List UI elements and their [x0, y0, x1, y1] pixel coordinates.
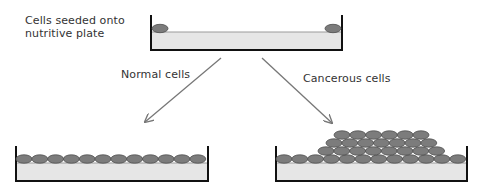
cell	[142, 155, 158, 163]
seeded-label: Cells seeded onto nutritive plate	[25, 14, 125, 40]
cell	[371, 155, 387, 163]
seeded-label-line2: nutritive plate	[25, 27, 125, 40]
cell	[366, 131, 382, 139]
cell	[111, 155, 127, 163]
cell	[323, 155, 339, 163]
cell	[276, 155, 292, 163]
nutrient-medium	[276, 163, 467, 181]
cell	[190, 155, 206, 163]
cell	[397, 147, 413, 155]
seed-plate	[151, 15, 342, 50]
nutrient-medium	[151, 32, 342, 50]
cell	[389, 139, 405, 147]
cell	[387, 155, 403, 163]
cell	[450, 155, 466, 163]
cell	[350, 131, 366, 139]
cell	[318, 147, 334, 155]
cell	[158, 155, 174, 163]
cell	[48, 155, 64, 163]
cell	[413, 131, 429, 139]
cancerous-cells-plate	[276, 131, 467, 181]
cell	[413, 147, 429, 155]
cell	[405, 139, 421, 147]
cell	[32, 155, 48, 163]
cell	[334, 147, 350, 155]
nutrient-medium	[16, 163, 208, 181]
cell	[342, 139, 358, 147]
cell	[152, 24, 168, 32]
cell	[63, 155, 79, 163]
cell	[16, 155, 32, 163]
cell	[365, 147, 381, 155]
cell	[174, 155, 190, 163]
cell	[127, 155, 143, 163]
cell	[325, 24, 341, 32]
cell	[79, 155, 95, 163]
cell	[421, 139, 437, 147]
cell	[355, 155, 371, 163]
cell	[397, 131, 413, 139]
arrow-to-cancerous	[262, 58, 332, 123]
cell	[350, 147, 366, 155]
cell	[308, 155, 324, 163]
normal-cells-plate	[16, 146, 208, 181]
cell	[95, 155, 111, 163]
normal-cells-label: Normal cells	[121, 68, 190, 81]
cell	[418, 155, 434, 163]
seeded-label-line1: Cells seeded onto	[25, 14, 125, 27]
cell	[381, 131, 397, 139]
cancerous-cells-label: Cancerous cells	[303, 72, 391, 85]
cell	[429, 147, 445, 155]
cell	[373, 139, 389, 147]
cell	[402, 155, 418, 163]
cell	[326, 139, 342, 147]
cell	[334, 131, 350, 139]
cell	[381, 147, 397, 155]
cell	[434, 155, 450, 163]
cell	[339, 155, 355, 163]
cell	[292, 155, 308, 163]
cell	[358, 139, 374, 147]
